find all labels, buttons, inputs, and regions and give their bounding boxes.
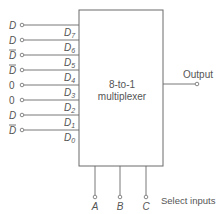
input-terminal [20, 113, 24, 117]
select-B: B [117, 166, 124, 212]
input-value: D [9, 35, 16, 46]
input-value: 0 [9, 80, 15, 91]
input-terminal [20, 128, 24, 132]
select-terminal [118, 195, 122, 199]
select-A: A [91, 166, 99, 212]
input-terminal [20, 68, 24, 72]
pin-label: D2 [64, 102, 75, 114]
pin-label: D0 [64, 132, 75, 144]
select-inputs-label: Select inputs [161, 195, 216, 206]
select-C: C [142, 166, 150, 212]
output-terminal [195, 82, 199, 86]
input-row-0: D D7 [9, 20, 79, 39]
select-terminal [144, 195, 148, 199]
output-label: Output [183, 69, 213, 80]
pin-label: D1 [64, 117, 75, 129]
input-value: 0 [9, 95, 15, 106]
pin-label: D3 [64, 87, 75, 99]
input-value: D [9, 125, 16, 136]
input-terminal [20, 98, 24, 102]
pin-label: D7 [64, 27, 76, 39]
select-label: B [117, 201, 124, 212]
input-value: D [9, 50, 16, 61]
input-value: D [9, 65, 16, 76]
input-terminal [20, 83, 24, 87]
pin-label: D4 [64, 72, 75, 84]
pin-label: D6 [64, 42, 75, 54]
mux-title-line1: 8-to-1 [109, 79, 136, 90]
mux-diagram: D D7 D D6 D D5 D D4 0 D3 0 D2 D [0, 0, 218, 214]
input-terminal [20, 53, 24, 57]
input-value: D [9, 110, 16, 121]
input-terminal [20, 23, 24, 27]
select-terminal [93, 195, 97, 199]
mux-title-line2: multiplexer [98, 91, 147, 102]
input-value: D [9, 20, 16, 31]
pin-label: D5 [64, 57, 75, 69]
select-label: C [142, 201, 150, 212]
select-label: A [91, 201, 99, 212]
input-terminal [20, 38, 24, 42]
